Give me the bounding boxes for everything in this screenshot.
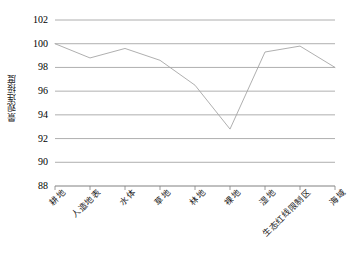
x-axis-tick-label: 湿地 [258, 188, 277, 207]
gridlines [55, 20, 335, 186]
y-axis-tick-label: 92 [14, 134, 48, 144]
plot-svg [55, 20, 335, 186]
plot-area [55, 20, 335, 186]
y-axis-tick-label: 94 [14, 110, 48, 120]
y-axis-tick-label: 96 [14, 86, 48, 96]
x-axis-tick-label: 海域 [328, 188, 347, 207]
y-axis-tick-labels: 102100989694929088 [14, 0, 48, 196]
x-axis-tick-label: 耕地 [48, 188, 67, 207]
y-axis-tick-label: 98 [14, 62, 48, 72]
x-axis-tick-label: 裸地 [223, 188, 242, 207]
x-axis-tick-label: 人造地表 [71, 188, 103, 220]
x-axis-tick-label: 林地 [188, 188, 207, 207]
y-axis-tick-label: 88 [14, 181, 48, 191]
x-axis-tick-label: 草地 [153, 188, 172, 207]
x-axis-tick-labels: 耕地人造地表水体草地林地裸地湿地生态红线限制区海域 [55, 188, 335, 267]
data-series-line [55, 44, 335, 129]
y-axis-tick-label: 90 [14, 157, 48, 167]
y-axis-tick-label: 102 [14, 15, 48, 25]
y-axis-tick-label: 100 [14, 39, 48, 49]
x-axis-tick-label: 水体 [118, 188, 137, 207]
